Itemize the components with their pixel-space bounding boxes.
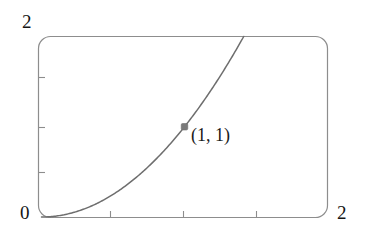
data-point-marker — [181, 124, 188, 131]
data-point-label: (1, 1) — [191, 126, 230, 144]
x-axis-max-label: 2 — [337, 203, 347, 222]
plot-figure: 2 0 2 (1, 1) — [0, 0, 366, 246]
origin-label: 0 — [20, 203, 30, 222]
plot-canvas — [0, 0, 366, 246]
y-axis-max-label: 2 — [22, 12, 32, 31]
